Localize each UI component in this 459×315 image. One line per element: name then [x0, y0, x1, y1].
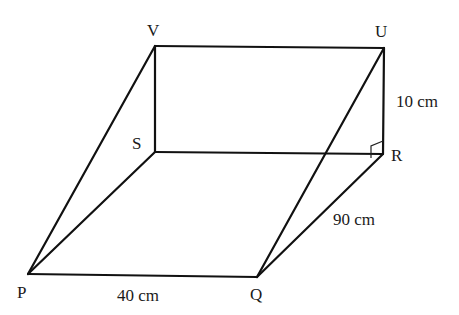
vertex-label-R: R	[391, 146, 403, 165]
measurement-PQ: 40 cm	[117, 286, 159, 305]
edge-QU	[257, 48, 384, 277]
prism-diagram: V U S R P Q 10 cm 90 cm 40 cm	[0, 0, 459, 315]
edges	[28, 46, 384, 277]
vertex-label-P: P	[17, 283, 26, 302]
edge-PS	[28, 152, 155, 274]
measurement-UR: 10 cm	[396, 92, 438, 111]
edge-PV	[28, 46, 155, 274]
measurement-QR: 90 cm	[333, 210, 375, 229]
edge-PQ	[28, 274, 257, 277]
edge-UR	[383, 48, 384, 154]
edge-VU	[155, 46, 384, 48]
vertex-label-S: S	[132, 134, 141, 153]
vertex-label-Q: Q	[250, 285, 262, 304]
vertex-label-U: U	[375, 22, 387, 41]
vertex-label-V: V	[147, 21, 160, 40]
edge-SR	[155, 152, 383, 154]
